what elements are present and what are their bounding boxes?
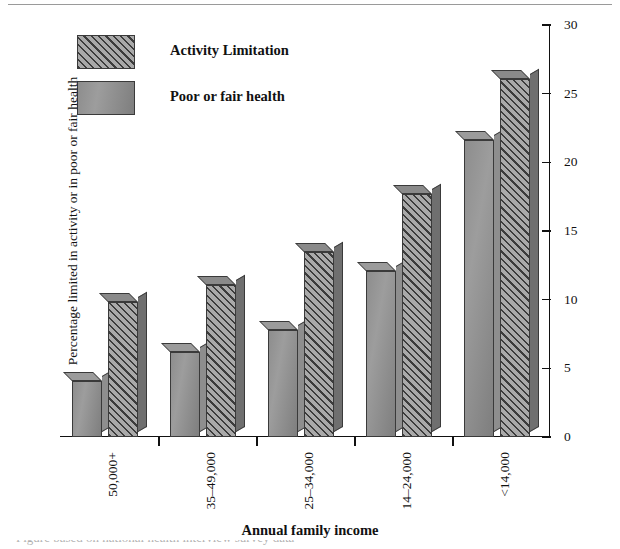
bars-layer xyxy=(60,25,550,437)
bar-side-face xyxy=(432,184,441,432)
bar-hatched-4 xyxy=(500,79,530,437)
y-tick-15 xyxy=(542,230,551,232)
bar-hatched-2 xyxy=(304,252,334,437)
x-tick-3 xyxy=(354,437,356,446)
bar-top-face xyxy=(259,321,298,330)
x-axis-title: Annual family income xyxy=(0,522,620,539)
bar-front-face xyxy=(402,194,432,437)
y-tick-label-5: 5 xyxy=(564,362,571,376)
x-tick-1 xyxy=(158,437,160,446)
y-tick-label-15: 15 xyxy=(564,224,578,238)
y-tick-25 xyxy=(542,93,551,95)
bar-solid-1 xyxy=(170,352,200,437)
bar-side-face xyxy=(334,241,343,432)
bar-side-face xyxy=(236,274,245,432)
x-category-label-2: 25–34,000 xyxy=(301,452,317,509)
y-tick-10 xyxy=(542,299,551,301)
top-divider xyxy=(8,4,612,5)
bar-top-face xyxy=(357,262,396,271)
y-tick-label-0: 0 xyxy=(564,430,571,444)
bar-hatched-3 xyxy=(402,194,432,437)
x-category-label-1: 35–49,000 xyxy=(203,452,219,509)
y-tick-label-10: 10 xyxy=(564,293,578,307)
y-tick-label-30: 30 xyxy=(564,18,578,32)
y-axis-title: Percentage limited in activity or in poo… xyxy=(65,0,81,456)
x-category-label-3: 14–24,000 xyxy=(399,452,415,509)
bar-front-face xyxy=(304,252,334,437)
y-tick-label-25: 25 xyxy=(564,87,578,101)
bar-top-face xyxy=(197,276,236,285)
y-tick-5 xyxy=(542,368,551,370)
bar-front-face xyxy=(268,330,298,437)
bar-side-face xyxy=(530,68,539,432)
bar-front-face xyxy=(464,140,494,437)
bar-top-face xyxy=(491,70,530,79)
bar-solid-4 xyxy=(464,140,494,437)
bar-hatched-0 xyxy=(108,302,138,437)
x-category-label-0: 50,000+ xyxy=(105,452,121,497)
y-tick-20 xyxy=(542,162,551,164)
bar-front-face xyxy=(108,302,138,437)
bar-front-face xyxy=(206,285,236,437)
bar-front-face xyxy=(366,271,396,437)
plot-area: 051015202530 Percentage limited in activ… xyxy=(60,25,550,437)
bar-top-face xyxy=(295,243,334,252)
bar-front-face xyxy=(500,79,530,437)
y-tick-30 xyxy=(542,24,551,26)
bar-hatched-1 xyxy=(206,285,236,437)
clipped-footer-text: Figure based on national health intervie… xyxy=(16,540,604,549)
bar-solid-3 xyxy=(366,271,396,437)
bar-top-face xyxy=(393,185,432,194)
bar-solid-2 xyxy=(268,330,298,437)
x-tick-4 xyxy=(452,437,454,446)
x-category-label-4: <14,000 xyxy=(497,452,513,497)
bar-side-face xyxy=(138,292,147,432)
bar-top-face xyxy=(99,293,138,302)
y-tick-label-20: 20 xyxy=(564,156,578,170)
y-tick-0 xyxy=(542,436,551,438)
bar-front-face xyxy=(170,352,200,437)
bar-top-face xyxy=(455,131,494,140)
chart-figure: Activity Limitation Poor or fair health … xyxy=(0,0,620,549)
x-tick-2 xyxy=(256,437,258,446)
bar-top-face xyxy=(161,343,200,352)
